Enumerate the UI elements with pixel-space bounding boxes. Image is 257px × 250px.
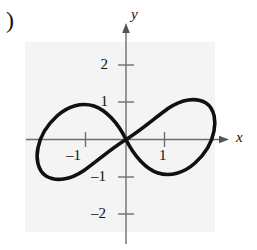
x-axis-label: x: [236, 129, 243, 146]
plot-canvas: [0, 0, 257, 250]
x-axis-arrowhead: [219, 136, 229, 144]
y-axis-arrowhead: [122, 23, 130, 33]
x-tick-label-1: 1: [159, 147, 167, 164]
figure-root: ) y x 2 1 –1 –2 –1 1: [0, 0, 257, 250]
y-tick-label-2: 2: [86, 56, 108, 73]
y-axis-label: y: [131, 6, 138, 23]
y-tick-label-1: 1: [86, 93, 108, 110]
y-axis: [118, 23, 134, 244]
x-tick-label-minus1: –1: [66, 147, 81, 164]
y-tick-label-minus2: –2: [84, 205, 106, 222]
y-tick-label-minus1: –1: [84, 168, 106, 185]
